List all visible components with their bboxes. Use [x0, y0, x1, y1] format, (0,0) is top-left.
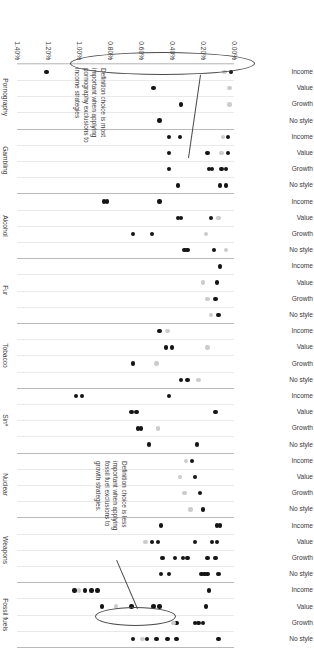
data-point: [216, 572, 220, 576]
row-label-income: Income: [241, 323, 313, 339]
data-point: [224, 183, 228, 187]
group-label-sin-: Sin*: [2, 388, 9, 453]
data-point: [193, 540, 197, 544]
data-point: [181, 556, 185, 560]
plot-row: Value: [0, 534, 313, 550]
data-point: [188, 507, 192, 511]
group-label-fur: Fur: [2, 258, 9, 323]
data-point: [150, 540, 154, 544]
row-label-value: Value: [241, 534, 313, 550]
data-point: [226, 151, 230, 155]
plot-row: Income: [0, 582, 313, 598]
data-point: [219, 151, 223, 155]
row-label-growth: Growth: [241, 291, 313, 307]
data-point: [130, 410, 134, 414]
data-point: [219, 167, 223, 171]
data-point: [224, 248, 228, 252]
data-point: [185, 556, 189, 560]
data-point: [215, 280, 219, 284]
plot-row: Income: [0, 193, 313, 209]
plot-row: Growth: [0, 96, 313, 112]
plot-row: Income: [0, 258, 313, 274]
group-separator: [17, 388, 234, 389]
row-label-no-style: No style: [241, 177, 313, 193]
data-point: [44, 70, 48, 74]
data-point: [154, 361, 158, 365]
data-point: [216, 313, 220, 317]
plot-row: No style: [0, 501, 313, 517]
row-label-no-style: No style: [241, 566, 313, 582]
data-point: [147, 442, 151, 446]
row-label-value: Value: [241, 80, 313, 96]
group-separator: [17, 647, 234, 648]
data-point: [174, 637, 178, 641]
plot-row: Growth: [0, 226, 313, 242]
group-separator: [17, 258, 234, 259]
data-point: [167, 394, 171, 398]
row-label-income: Income: [241, 193, 313, 209]
data-point: [171, 621, 175, 625]
data-point: [131, 232, 135, 236]
data-point: [74, 394, 78, 398]
row-label-income: Income: [241, 258, 313, 274]
plot-row: Value: [0, 404, 313, 420]
data-point: [178, 475, 182, 479]
data-point: [136, 426, 140, 430]
data-point: [213, 556, 217, 560]
data-point: [165, 329, 169, 333]
row-label-no-style: No style: [241, 307, 313, 323]
group-label-weapons: Weapons: [2, 517, 9, 582]
row-label-no-style: No style: [241, 242, 313, 258]
plot-row: Income: [0, 129, 313, 145]
data-point: [131, 361, 135, 365]
group-label-nuclear: Nuclear: [2, 453, 9, 518]
plot-row: Income: [0, 517, 313, 533]
data-point: [140, 637, 144, 641]
row-label-value: Value: [241, 274, 313, 290]
plot-row: Growth: [0, 161, 313, 177]
data-point: [201, 507, 205, 511]
data-point: [156, 426, 160, 430]
data-point: [167, 135, 171, 139]
data-point: [154, 637, 158, 641]
group-separator: [17, 129, 234, 130]
data-point: [95, 588, 99, 592]
data-point: [179, 378, 183, 382]
data-point: [167, 167, 171, 171]
row-label-no-style: No style: [241, 436, 313, 452]
x-tick-label: 1.40%: [14, 41, 21, 60]
group-separator: [17, 323, 234, 324]
data-point: [205, 151, 209, 155]
plot-row: No style: [0, 372, 313, 388]
data-point: [150, 232, 154, 236]
data-point: [179, 102, 183, 106]
annotation-fossil-fuels: Definition choice is less important when…: [94, 461, 128, 559]
data-point: [201, 621, 205, 625]
row-label-growth: Growth: [241, 550, 313, 566]
row-label-value: Value: [241, 404, 313, 420]
data-point: [151, 86, 155, 90]
plot-row: Growth: [0, 550, 313, 566]
data-point: [173, 556, 177, 560]
data-point: [198, 491, 202, 495]
data-point: [216, 216, 220, 220]
group-separator: [17, 193, 234, 194]
plot-row: Value: [0, 339, 313, 355]
group-label-pornography: Pornography: [2, 64, 9, 129]
row-label-no-style: No style: [241, 501, 313, 517]
callout-ellipse-fossil-fuels-growth: [95, 607, 176, 626]
row-label-growth: Growth: [241, 96, 313, 112]
row-label-value: Value: [241, 339, 313, 355]
data-point: [131, 637, 135, 641]
row-label-growth: Growth: [241, 485, 313, 501]
row-label-income: Income: [241, 129, 313, 145]
data-point: [209, 313, 213, 317]
data-point: [193, 475, 197, 479]
row-label-value: Value: [241, 210, 313, 226]
data-point: [205, 556, 209, 560]
group-separator: [17, 453, 234, 454]
data-point: [89, 588, 93, 592]
data-point: [209, 216, 213, 220]
data-point: [205, 345, 209, 349]
data-point: [226, 135, 230, 139]
